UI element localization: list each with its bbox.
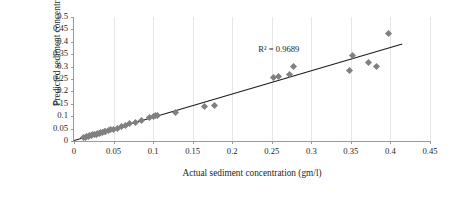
x-tick: [153, 141, 154, 144]
y-tick: [71, 116, 74, 117]
x-tick: [272, 141, 273, 144]
x-tick: [351, 141, 352, 144]
x-tick: [193, 141, 194, 144]
x-tick-label: 0.35: [331, 146, 371, 156]
y-tick: [71, 42, 74, 43]
y-tick-label: 0.05: [34, 123, 68, 133]
x-tick: [74, 141, 75, 144]
data-point: [290, 63, 297, 70]
x-axis-title: Actual sediment concentration (gm/l): [74, 168, 430, 178]
data-point: [154, 112, 161, 119]
x-tick-label: 0.05: [94, 146, 134, 156]
x-tick-label: 0.3: [291, 146, 331, 156]
gridline-vertical: [153, 17, 154, 141]
data-point: [201, 103, 208, 110]
x-tick-label: 0.15: [173, 146, 213, 156]
x-tick-label: 0.45: [410, 146, 450, 156]
x-tick-label: 0.1: [133, 146, 173, 156]
y-tick-label: 0.3: [34, 61, 68, 71]
scatter-chart: Predicted sediment concentration (gm/l) …: [0, 0, 454, 198]
data-point: [373, 63, 380, 70]
y-tick: [71, 91, 74, 92]
y-tick-label: 0.15: [34, 98, 68, 108]
gridline-vertical: [193, 17, 194, 141]
data-point: [211, 102, 218, 109]
annotation-text: R² = 0.9689: [258, 44, 299, 54]
x-tick-label: 0.4: [370, 146, 410, 156]
y-tick-label: 0.1: [34, 110, 68, 120]
y-tick-label: 0: [34, 135, 68, 145]
y-tick-label: 0.4: [34, 36, 68, 46]
y-tick: [71, 17, 74, 18]
y-tick-label: 0.2: [34, 85, 68, 95]
gridline-vertical: [430, 17, 431, 141]
y-tick-label: 0.35: [34, 48, 68, 58]
x-tick: [232, 141, 233, 144]
y-tick: [71, 54, 74, 55]
x-tick-label: 0.2: [212, 146, 252, 156]
y-tick-label: 0.45: [34, 23, 68, 33]
x-axis-line: [73, 141, 431, 142]
gridline-vertical: [114, 17, 115, 141]
x-tick: [311, 141, 312, 144]
y-tick: [71, 29, 74, 30]
y-tick: [71, 79, 74, 80]
x-tick: [430, 141, 431, 144]
y-tick-label: 0.25: [34, 73, 68, 83]
data-point: [138, 117, 145, 124]
gridline-vertical: [390, 17, 391, 141]
gridline-vertical: [311, 17, 312, 141]
gridline-vertical: [232, 17, 233, 141]
gridline-vertical: [351, 17, 352, 141]
x-tick-label: 0.25: [252, 146, 292, 156]
y-tick: [71, 104, 74, 105]
y-tick: [71, 67, 74, 68]
x-tick: [114, 141, 115, 144]
y-tick: [71, 129, 74, 130]
x-tick-label: 0: [54, 146, 94, 156]
plot-area: 00.050.10.150.20.250.30.350.40.45 00.050…: [74, 17, 430, 141]
y-tick-label: 0.5: [34, 11, 68, 21]
x-tick: [390, 141, 391, 144]
data-point: [172, 109, 179, 116]
data-point: [365, 59, 372, 66]
